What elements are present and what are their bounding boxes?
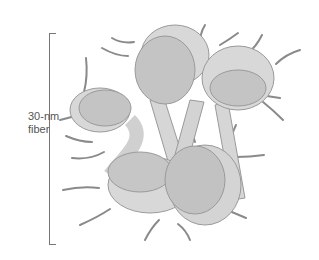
chromatin-fiber-illustration: [0, 0, 319, 260]
